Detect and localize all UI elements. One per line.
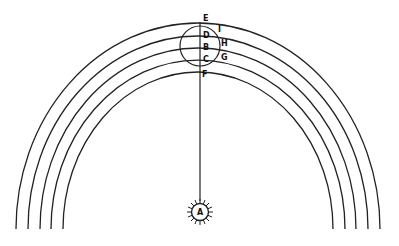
arc-1 xyxy=(16,23,380,229)
arc-2 xyxy=(28,36,368,229)
label-F: F xyxy=(202,70,207,79)
label-H: H xyxy=(221,39,228,48)
concentric-arcs xyxy=(16,23,380,229)
label-C: C xyxy=(203,55,209,64)
diagram-figure: A E D B C F I H G xyxy=(0,0,399,246)
sun-icon: A xyxy=(187,199,213,225)
label-sun: A xyxy=(197,208,204,217)
label-E: E xyxy=(203,14,208,23)
label-D: D xyxy=(203,31,210,40)
label-I: I xyxy=(218,25,221,34)
label-B: B xyxy=(203,43,209,52)
label-G: G xyxy=(221,53,228,62)
